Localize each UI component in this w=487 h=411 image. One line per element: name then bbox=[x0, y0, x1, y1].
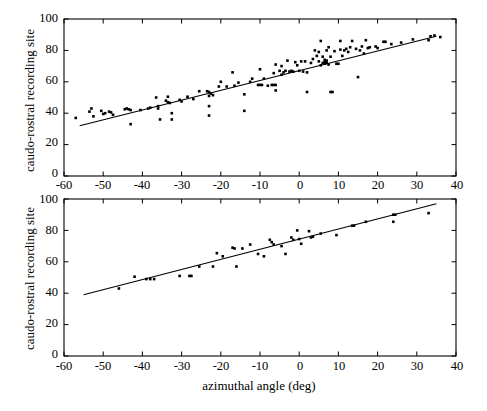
data-point bbox=[90, 107, 93, 110]
data-point bbox=[274, 84, 277, 87]
data-point bbox=[169, 102, 172, 105]
data-point bbox=[351, 40, 354, 43]
data-point bbox=[267, 84, 270, 87]
data-point bbox=[390, 43, 393, 46]
data-point bbox=[376, 47, 379, 50]
data-point bbox=[286, 59, 289, 62]
data-point bbox=[190, 275, 193, 278]
data-point bbox=[341, 55, 344, 58]
data-point bbox=[243, 93, 246, 96]
data-point bbox=[312, 58, 315, 61]
data-point bbox=[280, 65, 283, 68]
data-point bbox=[365, 220, 368, 223]
data-point bbox=[74, 117, 77, 120]
data-point bbox=[333, 50, 336, 53]
data-point bbox=[129, 123, 132, 126]
data-point bbox=[92, 115, 95, 118]
data-point bbox=[278, 70, 281, 73]
data-point bbox=[319, 64, 322, 67]
data-point bbox=[327, 63, 330, 66]
data-point bbox=[237, 81, 240, 84]
data-point bbox=[157, 107, 160, 110]
data-point bbox=[171, 118, 174, 121]
data-point bbox=[319, 40, 322, 43]
data-point bbox=[284, 70, 287, 73]
data-point bbox=[269, 239, 272, 242]
data-point bbox=[306, 71, 309, 74]
data-point bbox=[225, 85, 228, 88]
data-point bbox=[308, 230, 311, 233]
data-point bbox=[325, 59, 328, 62]
data-point bbox=[331, 91, 334, 94]
data-points bbox=[118, 212, 430, 290]
axes-frame bbox=[64, 19, 456, 176]
data-point bbox=[198, 90, 201, 93]
data-point bbox=[233, 247, 236, 250]
data-point bbox=[310, 62, 313, 65]
data-point bbox=[139, 109, 142, 112]
data-point bbox=[157, 105, 160, 108]
data-point bbox=[339, 40, 342, 43]
data-point bbox=[318, 60, 321, 63]
data-point bbox=[314, 49, 317, 52]
data-point bbox=[337, 62, 340, 65]
panel-bottom: caudo-rostral recording site 100 80 60 4… bbox=[0, 190, 487, 411]
data-point bbox=[327, 46, 330, 49]
data-point bbox=[171, 112, 174, 115]
data-point bbox=[349, 46, 352, 49]
data-point bbox=[249, 243, 252, 246]
data-point bbox=[433, 34, 436, 37]
data-point bbox=[243, 110, 246, 113]
data-point bbox=[88, 110, 91, 113]
data-point bbox=[368, 46, 371, 49]
data-point bbox=[274, 89, 277, 92]
data-point bbox=[304, 60, 307, 63]
data-point bbox=[302, 70, 305, 73]
data-point bbox=[361, 45, 364, 48]
data-point bbox=[159, 118, 162, 121]
data-point bbox=[235, 265, 238, 268]
data-point bbox=[257, 253, 260, 256]
regression-line bbox=[80, 36, 437, 125]
data-point bbox=[270, 241, 273, 244]
data-point bbox=[427, 212, 430, 215]
data-point bbox=[359, 49, 362, 52]
data-point bbox=[186, 95, 189, 98]
data-point bbox=[263, 77, 266, 80]
data-point bbox=[292, 239, 295, 242]
data-point bbox=[192, 98, 195, 101]
data-point bbox=[198, 265, 201, 268]
data-point bbox=[251, 77, 254, 80]
data-point bbox=[312, 235, 315, 238]
data-point bbox=[412, 38, 415, 41]
data-point bbox=[429, 35, 432, 38]
data-point bbox=[212, 265, 215, 268]
data-point bbox=[296, 64, 299, 67]
data-point bbox=[355, 48, 358, 51]
data-point bbox=[129, 109, 132, 112]
axes-frame bbox=[64, 199, 456, 356]
data-point bbox=[133, 275, 136, 278]
data-point bbox=[241, 247, 244, 250]
data-point bbox=[208, 114, 211, 117]
data-point bbox=[100, 110, 103, 113]
data-point bbox=[280, 245, 283, 248]
data-point bbox=[261, 84, 264, 87]
data-point bbox=[155, 96, 158, 99]
data-point bbox=[394, 213, 397, 216]
data-point bbox=[145, 278, 148, 281]
data-point bbox=[233, 84, 236, 87]
data-point bbox=[149, 278, 152, 281]
data-point bbox=[357, 76, 360, 79]
data-point bbox=[112, 113, 115, 116]
data-point bbox=[274, 63, 277, 66]
data-point bbox=[353, 224, 356, 227]
data-point bbox=[231, 71, 234, 74]
plot-area-bottom bbox=[0, 190, 487, 411]
data-point bbox=[153, 278, 156, 281]
data-point bbox=[104, 112, 107, 115]
data-point bbox=[118, 287, 121, 290]
data-point bbox=[218, 85, 221, 88]
data-point bbox=[220, 81, 223, 84]
data-point bbox=[325, 49, 328, 52]
